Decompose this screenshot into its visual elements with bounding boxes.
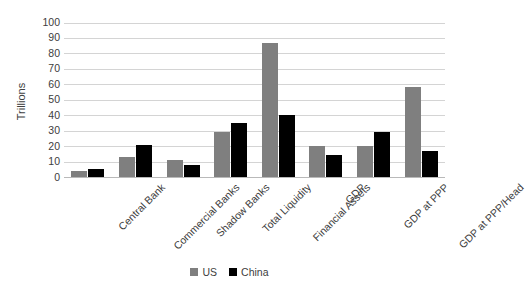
bar-us xyxy=(405,87,421,177)
y-axis-tick: 10 xyxy=(28,156,60,167)
legend-swatch-icon xyxy=(229,268,237,276)
bar-china xyxy=(136,145,152,177)
bar-group xyxy=(255,23,303,178)
bar-group xyxy=(207,23,255,178)
bar-us xyxy=(262,43,278,177)
bar-china xyxy=(374,132,390,177)
legend-item: China xyxy=(229,266,268,278)
legend-label: US xyxy=(202,266,217,278)
y-axis-tick: 40 xyxy=(28,110,60,121)
y-axis-tick: 100 xyxy=(28,17,60,28)
y-axis-title-label: Trillions xyxy=(14,24,28,179)
plot-area xyxy=(64,23,445,178)
y-axis-title: Trillions xyxy=(14,0,28,24)
bar-china xyxy=(422,151,438,177)
legend-label: China xyxy=(241,266,268,278)
legend-item: US xyxy=(190,266,217,278)
y-axis-tick: 80 xyxy=(28,48,60,59)
bar-us xyxy=(214,132,230,177)
bar-china xyxy=(88,169,104,177)
y-axis-tick: 20 xyxy=(28,141,60,152)
bar-china xyxy=(231,123,247,177)
bar-group xyxy=(397,23,445,178)
x-axis-label: GDP at PPP xyxy=(401,181,451,231)
bar-china xyxy=(279,115,295,177)
y-axis-tick: 0 xyxy=(28,172,60,183)
x-axis-label: Central Bank xyxy=(116,181,167,232)
y-axis-tick: 60 xyxy=(28,79,60,90)
bar-us xyxy=(309,146,325,177)
y-axis-tick-labels: 1009080706050403020100 xyxy=(28,17,60,177)
chart-legend: USChina xyxy=(0,266,459,278)
bar-groups xyxy=(64,23,445,178)
bar-group xyxy=(350,23,398,178)
x-axis-label: Shadow Banks xyxy=(214,181,272,239)
bar-group xyxy=(302,23,350,178)
bar-group xyxy=(64,23,112,178)
x-axis-category-labels: Central BankCommercial BanksShadow Banks… xyxy=(64,177,445,257)
y-axis-tick: 30 xyxy=(28,125,60,136)
bar-group xyxy=(112,23,160,178)
x-axis-label: GDP at PPP/Head xyxy=(456,181,525,250)
bar-china xyxy=(326,155,342,177)
bar-us xyxy=(119,157,135,177)
bar-china xyxy=(184,165,200,177)
bar-us xyxy=(167,160,183,177)
y-axis-tick: 90 xyxy=(28,32,60,43)
y-axis-tick: 70 xyxy=(28,63,60,74)
legend-swatch-icon xyxy=(190,268,198,276)
y-axis-tick: 50 xyxy=(28,94,60,105)
bar-group xyxy=(159,23,207,178)
bar-us xyxy=(357,146,373,177)
